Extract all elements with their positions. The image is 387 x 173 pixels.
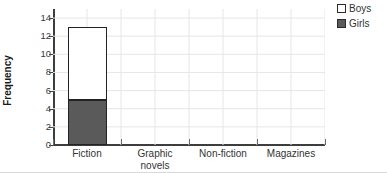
x-axis-tick-label: Non-fiction <box>189 148 257 160</box>
y-axis-tick-label: 4 <box>29 104 51 114</box>
x-axis-tick-mark <box>189 139 190 145</box>
x-axis-tick-label-line1: Graphic <box>121 148 189 160</box>
chart-legend: BoysGirls <box>337 2 387 32</box>
legend-item-boys[interactable]: Boys <box>337 2 387 15</box>
y-axis-tick-label: 10 <box>29 50 51 60</box>
x-axis-tick-mark <box>53 139 54 145</box>
legend-swatch-icon <box>337 19 346 28</box>
y-axis-title-text: Frequency <box>2 55 13 106</box>
legend-item-girls[interactable]: Girls <box>337 17 387 30</box>
y-axis-tick-label: 14 <box>29 13 51 23</box>
bottom-divider <box>0 172 387 173</box>
y-axis-tick-label: 6 <box>29 86 51 96</box>
y-axis-title: Frequency <box>0 30 14 130</box>
y-axis-tick-label: 12 <box>29 31 51 41</box>
x-axis-tick-label: Graphicnovels <box>121 148 189 171</box>
plot-area <box>53 9 325 145</box>
bar-segment-girls[interactable] <box>68 100 107 145</box>
legend-label: Girls <box>349 19 370 29</box>
bar-group[interactable] <box>68 9 107 145</box>
stacked-bar-chart: Frequency 02468101214 FictionGraphicnove… <box>0 0 387 173</box>
x-axis-tick-label-line1: Magazines <box>257 148 325 160</box>
x-axis-tick-label: Fiction <box>53 148 121 160</box>
y-axis-tick-label: 0 <box>29 140 51 150</box>
legend-label: Boys <box>349 4 371 14</box>
x-axis-tick-label-line2: novels <box>121 160 189 172</box>
x-axis-tick-label: Magazines <box>257 148 325 160</box>
legend-swatch-icon <box>337 4 346 13</box>
y-axis-tick-label: 8 <box>29 68 51 78</box>
x-axis-tick-label-line1: Fiction <box>53 148 121 160</box>
x-axis-tick-mark <box>257 139 258 145</box>
x-axis-tick-label-line1: Non-fiction <box>189 148 257 160</box>
x-axis-tick-mark <box>325 139 326 145</box>
y-axis-tick-label: 2 <box>29 122 51 132</box>
bar-segment-boys[interactable] <box>68 27 107 100</box>
x-axis-tick-mark <box>121 139 122 145</box>
